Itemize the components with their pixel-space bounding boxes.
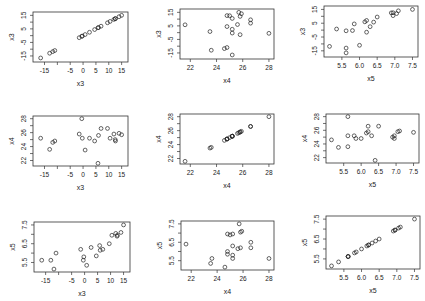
x-tick-label: 10 [107,277,115,284]
y-tick-label: -15 [20,51,27,61]
y-axis-label: x3 [299,28,306,36]
y-tick-label: 5.5 [21,258,28,267]
y-tick-label: 6.5 [313,234,320,243]
x-axis-label: x5 [369,287,377,294]
data-point [94,254,98,258]
data-point [344,51,348,55]
x-tick-label: 7.5 [410,274,419,281]
x-tick-label: 5.5 [339,168,348,175]
x-axis-label: x4 [223,182,231,189]
x-tick-label: 6.5 [375,274,384,281]
data-point [412,130,416,134]
y-tick-label: 22 [167,155,174,163]
x-tick-label: 5 [94,67,98,74]
y-axis-label: x4 [155,135,162,143]
y-tick-label: 7.5 [21,220,28,229]
y-tick-label: 28 [20,115,27,123]
x-tick-label: 26 [239,169,247,176]
x-tick-label: 26 [239,275,247,282]
data-point [98,244,102,248]
data-point [358,43,362,47]
data-point [375,15,379,19]
y-tick-label: 7.5 [168,219,175,228]
data-point [249,125,253,129]
data-point [346,145,350,149]
data-point [88,136,92,140]
data-point [184,242,188,246]
y-axis-label: x4 [301,135,308,143]
plot-frame [180,114,274,164]
data-point [370,241,374,245]
data-point [39,56,43,60]
x-tick-label: 10 [105,171,113,178]
plot-frame [326,114,419,163]
x-tick-label: 28 [265,275,273,282]
x-tick-label: -15 [40,171,50,178]
y-axis-label: x4 [8,137,15,145]
y-axis-label: x5 [9,243,16,251]
y-tick-label: 7.5 [313,214,320,223]
data-point [223,265,227,269]
y-tick-label: 5.5 [313,254,320,263]
y-tick-label: 28 [167,113,174,121]
data-point [330,264,334,268]
plot-frame [180,9,274,59]
x-axis-label: x3 [78,290,86,297]
x-tick-label: 15 [118,171,126,178]
data-point [183,159,187,163]
data-point [267,31,271,35]
x-tick-label: 0 [81,171,85,178]
data-point [208,30,212,34]
data-point [368,25,372,29]
x-axis-label: x5 [369,181,377,188]
data-point [210,257,214,261]
x-tick-label: 7.0 [390,62,399,69]
data-point [344,46,348,50]
data-point [373,158,377,162]
x-tick-label: 6.5 [374,168,383,175]
x-tick-label: 28 [265,169,273,176]
panel-x3-vs-x5: 5.56.06.57.07.5-15-5515x5x3 [299,5,418,82]
y-tick-label: 22 [20,157,27,165]
x-tick-label: 28 [265,64,273,71]
panel-x4-vs-x3: -15-505101522242628x3x4 [8,115,128,191]
data-point [226,252,230,256]
data-point [52,267,56,271]
y-tick-label: 5 [20,27,27,31]
x-tick-label: 22 [188,275,196,282]
data-point [49,258,53,262]
data-point [110,233,114,237]
x-tick-label: 6.0 [357,274,366,281]
x-tick-label: 0 [83,277,87,284]
y-tick-label: 5.5 [168,256,175,265]
data-point [230,27,234,31]
x-tick-label: 5 [94,171,98,178]
data-point [99,127,103,131]
data-point [106,127,110,131]
y-tick-label: -5 [167,36,174,42]
x-axis-label: x4 [223,77,231,84]
data-point [330,138,334,142]
data-point [230,53,234,57]
data-point [54,251,58,255]
data-point [108,136,112,140]
data-point [40,258,44,262]
x-tick-label: 7.0 [392,168,401,175]
x-tick-label: 6.0 [355,62,364,69]
x-tick-label: 6.0 [357,168,366,175]
x-tick-label: 24 [213,169,221,176]
y-axis-label: x5 [301,239,308,247]
data-point [351,29,355,33]
x-tick-label: -5 [67,171,73,178]
data-point [96,161,100,165]
x-tick-label: 7.5 [409,168,418,175]
data-point [88,30,92,34]
data-point [208,146,212,150]
x-axis-label: x5 [367,75,375,82]
x-tick-label: -5 [69,277,75,284]
data-point [97,134,101,138]
data-point [225,14,229,18]
data-point [352,22,356,26]
y-tick-label: 22 [313,154,320,162]
data-point [83,148,87,152]
